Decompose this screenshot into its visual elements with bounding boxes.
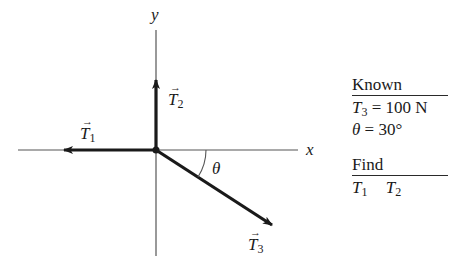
find-item-t2: T2 [386,179,401,198]
x-axis-label: x [306,141,314,158]
origin-point [153,147,160,154]
known-item-theta: θ = 30° [352,121,452,138]
vector-t2-label: → T2 [168,91,183,110]
vector-arrow-icon: → [170,82,181,93]
vector-arrow-icon: → [250,227,261,238]
find-items: T1 T2 [352,179,452,198]
known-item-t3: T3 = 100 N [352,99,452,118]
vector-t1-label: → T1 [80,125,95,144]
known-find-panel: Known T3 = 100 N θ = 30° Find T1 T2 [352,76,452,198]
find-heading: Find [352,156,448,176]
theta-label: θ [212,160,220,177]
y-axis-label: y [151,6,159,23]
known-heading: Known [352,76,448,96]
find-item-t1: T1 [352,179,367,198]
vector-arrow-icon: → [82,116,93,127]
angle-arc [198,150,206,177]
vector-t3-label: → T3 [248,236,263,255]
